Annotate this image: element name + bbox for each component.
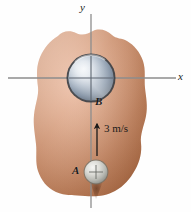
physics-figure: y x B A 3 m/s — [0, 0, 191, 212]
x-axis-label: x — [178, 71, 183, 82]
sphere-a-label: A — [72, 165, 79, 176]
velocity-label: 3 m/s — [104, 123, 128, 134]
sphere-b — [67, 54, 116, 103]
sphere-b-label: B — [95, 96, 102, 107]
y-axis-label: y — [80, 2, 85, 13]
